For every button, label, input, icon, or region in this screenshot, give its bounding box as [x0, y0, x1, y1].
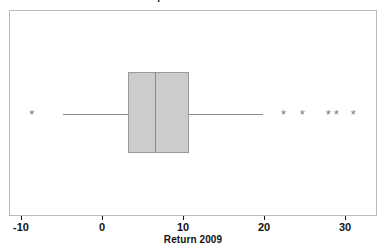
outlier-marker: * [331, 109, 342, 120]
x-tick-label: 0 [82, 221, 122, 233]
whisker-high [189, 114, 264, 115]
plot-frame: ****** [9, 10, 377, 216]
outlier-marker: * [297, 109, 308, 120]
x-tick-label: 30 [325, 221, 365, 233]
outlier-marker: * [278, 109, 289, 120]
x-tick-mark [21, 216, 22, 220]
whisker-low [63, 114, 128, 115]
x-axis-label: Return 2009 [0, 234, 386, 245]
x-tick-label: 20 [244, 221, 284, 233]
x-tick-mark [102, 216, 103, 220]
x-tick-mark [264, 216, 265, 220]
iqr-box [128, 72, 189, 153]
x-tick-mark [345, 216, 346, 220]
boxplot-chart: Boxplot of Return 2009 ****** -100102030… [0, 0, 386, 249]
x-tick-mark [183, 216, 184, 220]
outlier-marker: * [348, 109, 359, 120]
x-tick-label: 10 [163, 221, 203, 233]
plot-area: ****** [10, 11, 376, 215]
chart-title: Boxplot of Return 2009 [0, 0, 386, 3]
median-line [155, 72, 156, 153]
x-tick-label: -10 [1, 221, 41, 233]
outlier-marker: * [26, 109, 37, 120]
